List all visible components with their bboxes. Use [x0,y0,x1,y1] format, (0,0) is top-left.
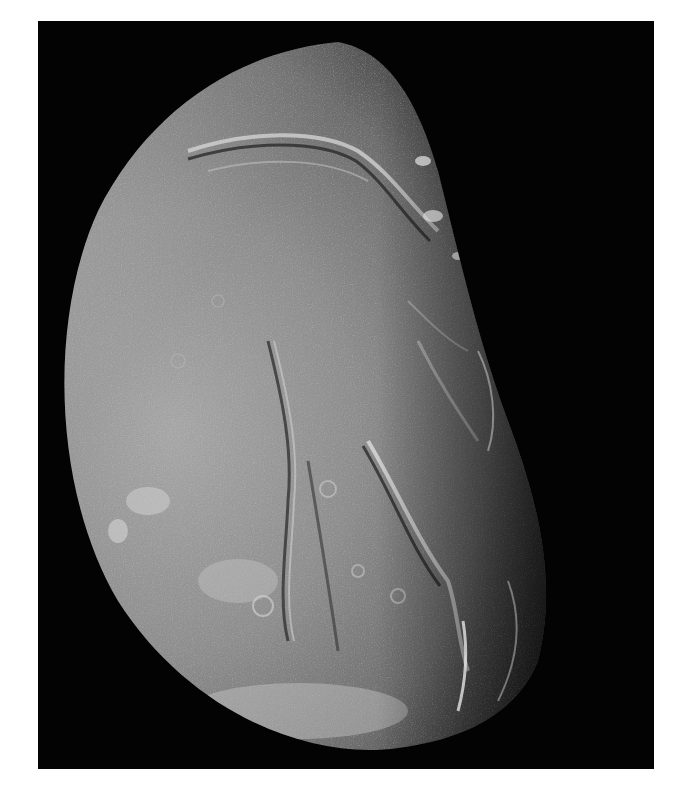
photo-frame [38,21,654,769]
moon-disk [38,21,654,769]
moon-image [38,21,654,769]
